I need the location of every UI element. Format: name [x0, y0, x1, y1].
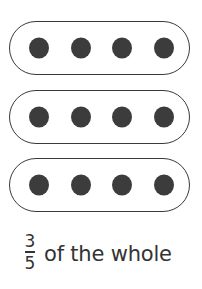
- fraction-numerator: 3: [25, 232, 36, 250]
- fraction: 3 5: [24, 232, 36, 272]
- caption-text: of the whole: [44, 238, 172, 266]
- dot-group-3: [9, 158, 190, 212]
- dot: [112, 38, 132, 59]
- fraction-denominator: 5: [25, 254, 36, 272]
- dot: [71, 107, 91, 128]
- dot: [112, 107, 132, 128]
- dot: [29, 38, 49, 59]
- fraction-diagram: 3 5 of the whole: [0, 0, 202, 289]
- dot: [29, 107, 49, 128]
- caption: 3 5 of the whole: [24, 230, 172, 274]
- dot: [29, 175, 49, 196]
- dot: [154, 107, 174, 128]
- dot: [112, 175, 132, 196]
- dot-group-2: [9, 90, 190, 144]
- dot-group-1: [9, 21, 190, 75]
- dot: [71, 175, 91, 196]
- dot: [71, 38, 91, 59]
- dot: [154, 175, 174, 196]
- dot: [154, 38, 174, 59]
